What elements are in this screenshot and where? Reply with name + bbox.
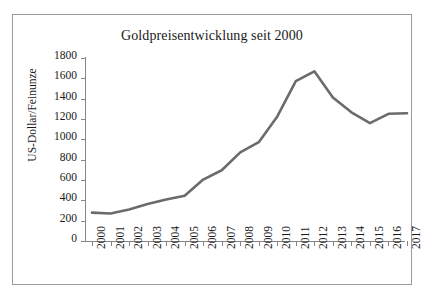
x-axis-tick-mark (129, 241, 130, 246)
y-axis-tick-mark (81, 200, 86, 201)
y-axis-tick-mark (81, 78, 86, 79)
y-axis-tick-mark (81, 58, 86, 59)
y-axis-tick-mark (81, 160, 86, 161)
x-axis-tick-mark (333, 241, 334, 246)
x-axis-tick-label: 2014 (355, 226, 367, 249)
y-axis-tick-label: 1200 (54, 111, 77, 123)
y-axis-tick-mark (81, 180, 86, 181)
x-axis-tick-label: 2003 (152, 226, 164, 249)
x-axis-tick-mark (111, 241, 112, 246)
x-axis-tick-mark (203, 241, 204, 246)
y-axis-tick-mark (81, 99, 86, 100)
x-axis-tick-mark (370, 241, 371, 246)
x-axis-tick-mark (388, 241, 389, 246)
chart-title: Goldpreisentwicklung seit 2000 (13, 28, 411, 44)
x-axis-tick-label: 2004 (170, 226, 182, 249)
x-axis-tick-mark (148, 241, 149, 246)
y-axis-title: US-Dollar/Feinunze (26, 50, 38, 180)
y-axis-tick-label: 1000 (54, 131, 77, 143)
x-axis-tick-mark (259, 241, 260, 246)
x-axis-tick-label: 2007 (226, 226, 238, 249)
x-axis-tick-label: 2010 (281, 226, 293, 249)
x-axis-tick-label: 2015 (374, 226, 386, 249)
x-axis-tick-mark (296, 241, 297, 246)
x-axis-tick-mark (92, 241, 93, 246)
y-axis-tick-label: 200 (60, 213, 77, 225)
y-axis-tick-label: 400 (60, 192, 77, 204)
x-axis-tick-mark (240, 241, 241, 246)
x-axis-tick-label: 2016 (392, 226, 404, 249)
y-axis-tick-label: 0 (71, 233, 77, 245)
x-axis-tick-label: 2012 (318, 226, 330, 249)
x-axis-tick-mark (351, 241, 352, 246)
x-axis-tick-mark (166, 241, 167, 246)
x-axis-tick-label: 2009 (263, 226, 275, 249)
y-axis-tick-label: 800 (60, 152, 77, 164)
y-axis-tick-label: 1800 (54, 50, 77, 62)
x-axis-tick-label: 2005 (189, 226, 201, 249)
y-axis-tick-mark (81, 221, 86, 222)
x-axis-tick-mark (277, 241, 278, 246)
x-axis-tick-label: 2006 (207, 226, 219, 249)
x-axis-tick-label: 2001 (115, 226, 127, 249)
x-axis-tick-label: 2017 (411, 226, 423, 249)
chart-figure: Goldpreisentwicklung seit 2000 US-Dollar… (12, 14, 412, 285)
y-axis-tick-mark (81, 119, 86, 120)
x-axis-tick-label: 2013 (337, 226, 349, 249)
plot-area (86, 58, 413, 241)
x-axis-tick-mark (314, 241, 315, 246)
x-axis-tick-label: 2000 (96, 226, 108, 249)
x-axis-tick-label: 2008 (244, 226, 256, 249)
x-axis-tick-mark (222, 241, 223, 246)
data-series-line (86, 58, 413, 241)
x-axis-tick-mark (185, 241, 186, 246)
y-axis-tick-label: 1400 (54, 91, 77, 103)
x-axis-tick-label: 2011 (300, 226, 312, 249)
x-axis-tick-label: 2002 (133, 226, 145, 249)
y-axis-tick-label: 1600 (54, 70, 77, 82)
y-axis-tick-mark (81, 139, 86, 140)
y-axis-tick-mark (81, 241, 86, 242)
y-axis-tick-label: 600 (60, 172, 77, 184)
x-axis-tick-mark (407, 241, 408, 246)
